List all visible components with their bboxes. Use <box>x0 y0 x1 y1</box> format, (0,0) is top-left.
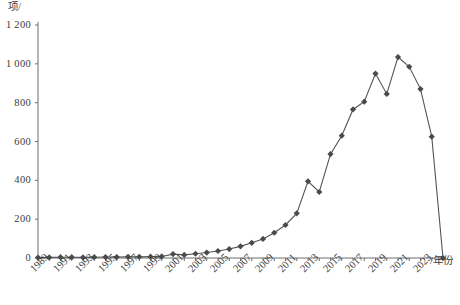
data-point-marker <box>339 133 345 139</box>
data-point-marker <box>417 86 423 92</box>
data-point-marker <box>384 91 390 97</box>
y-tick-label: 0 <box>0 253 31 264</box>
data-point-marker <box>327 151 333 157</box>
y-tick-label: 1 000 <box>0 59 31 70</box>
data-point-marker <box>249 240 255 246</box>
y-tick-label: 400 <box>0 175 31 186</box>
axes <box>38 22 443 258</box>
data-point-marker <box>226 246 232 252</box>
data-point-marker <box>361 99 367 105</box>
line-chart: 项/ /年份 02004006008001 0001 200 198919911… <box>0 0 460 305</box>
y-tick-label: 1 200 <box>0 20 31 31</box>
data-point-marker <box>271 230 277 236</box>
data-point-marker <box>429 134 435 140</box>
data-point-marker <box>372 70 378 76</box>
data-point-marker <box>260 236 266 242</box>
data-point-marker <box>440 255 446 261</box>
data-point-marker <box>350 106 356 112</box>
y-tick-label: 600 <box>0 137 31 148</box>
data-point-marker <box>237 243 243 249</box>
y-tick-label: 200 <box>0 214 31 225</box>
y-tick-label: 800 <box>0 98 31 109</box>
series-line <box>38 57 443 258</box>
series-markers <box>35 54 446 261</box>
